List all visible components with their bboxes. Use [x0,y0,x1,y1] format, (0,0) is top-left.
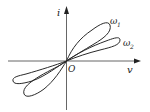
origin-label: O [68,64,76,74]
svg-text:2: 2 [129,43,134,50]
v-axis-arrow-icon [134,59,141,64]
i-axis-arrow-icon [64,6,69,14]
omega1-label: ω 1 [110,16,121,28]
omega2-label: ω 2 [123,38,134,50]
iv-diagram: i v O ω 1 ω 2 [0,0,150,112]
v-axis-label: v [127,64,133,75]
i-axis-label: i [57,7,60,18]
svg-text:1: 1 [117,21,121,28]
loop-omega1 [24,23,111,97]
